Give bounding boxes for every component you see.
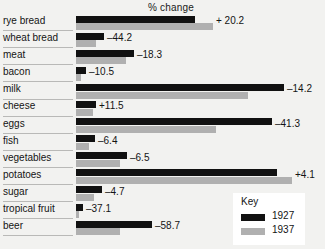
bar-1937: [76, 228, 120, 235]
bar-1937: [76, 211, 79, 218]
bar-value-label: –14.2: [287, 83, 312, 95]
chart-row: eggs–41.3: [0, 117, 325, 134]
bar-value-label: –58.7: [155, 220, 180, 232]
bar-1927: [76, 118, 272, 125]
bar-value-label: + 20.2: [216, 15, 244, 27]
bar-1927: [76, 152, 127, 159]
bar-value-label: +11.5: [99, 100, 124, 112]
bar-value-label: –4.7: [105, 186, 124, 198]
category-label: milk: [3, 83, 21, 95]
category-label: cheese: [3, 100, 35, 112]
bar-1937: [76, 126, 216, 133]
bar-value-label: –10.5: [89, 66, 114, 78]
chart-row: fish–6.4: [0, 134, 325, 151]
chart-row: rye bread+ 20.2: [0, 14, 325, 31]
category-label: sugar: [3, 186, 28, 198]
bar-value-label: –6.5: [130, 152, 149, 164]
bar-value-label: –37.1: [86, 203, 111, 215]
bar-value-label: –6.4: [98, 135, 117, 147]
legend-swatch-icon-1927: [241, 214, 265, 221]
bar-value-label: +4.1: [295, 169, 315, 181]
bar-1927: [76, 101, 96, 108]
chart-row: meat–18.3: [0, 48, 325, 65]
category-label: rye bread: [3, 15, 45, 27]
chart-row: wheat bread–44.2: [0, 31, 325, 48]
bar-1927: [76, 169, 277, 176]
chart-row: potatoes+4.1: [0, 168, 325, 185]
chart-title: % change: [148, 2, 194, 13]
category-label: eggs: [3, 118, 25, 130]
chart-row: milk–14.2: [0, 82, 325, 99]
chart-row: cheese+11.5: [0, 99, 325, 116]
bar-1937: [76, 23, 213, 30]
legend-title: Key: [241, 196, 258, 207]
chart-row: bacon–10.5: [0, 65, 325, 82]
category-label: vegetables: [3, 152, 51, 164]
chart-legend: Key 1927 1937: [233, 193, 305, 245]
bar-1927: [76, 67, 86, 74]
chart-row: vegetables–6.5: [0, 151, 325, 168]
legend-label-1937: 1937: [272, 224, 294, 235]
bar-1937: [76, 74, 81, 81]
category-label: meat: [3, 49, 25, 61]
category-label: beer: [3, 220, 23, 232]
bar-1927: [76, 84, 284, 91]
bar-1937: [76, 109, 93, 116]
bar-1937: [76, 57, 126, 64]
bar-1937: [76, 92, 248, 99]
category-label: fish: [3, 135, 19, 147]
bar-1937: [76, 143, 89, 150]
bar-value-label: –41.3: [275, 118, 300, 130]
bar-1927: [76, 50, 134, 57]
bar-1937: [76, 40, 96, 47]
bar-1927: [76, 16, 195, 23]
category-label: tropical fruit: [3, 203, 55, 215]
category-label: potatoes: [3, 169, 41, 181]
bar-1927: [76, 33, 104, 40]
bar-1937: [76, 177, 292, 184]
legend-swatch-icon-1937: [241, 228, 265, 235]
bar-1927: [76, 186, 102, 193]
category-label: wheat bread: [3, 32, 58, 44]
bar-1937: [76, 194, 94, 201]
bar-1927: [76, 221, 152, 228]
bar-1927: [76, 204, 83, 211]
legend-label-1927: 1927: [272, 210, 294, 221]
bar-value-label: –44.2: [107, 32, 132, 44]
row-divider: [3, 235, 73, 236]
bar-1937: [76, 160, 120, 167]
bar-value-label: –18.3: [137, 49, 162, 61]
percent-change-bar-chart: % change rye bread+ 20.2wheat bread–44.2…: [0, 0, 325, 249]
bar-1927: [76, 135, 95, 142]
category-label: bacon: [3, 66, 30, 78]
